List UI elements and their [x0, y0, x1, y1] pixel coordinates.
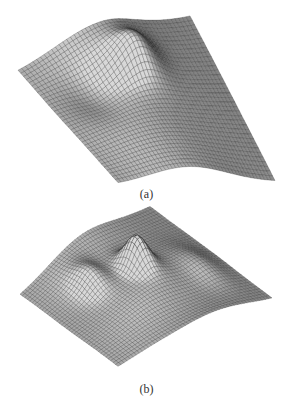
- figure-panel-b: (b): [0, 200, 293, 412]
- mesh-surface-b: [0, 200, 293, 380]
- surface-a-mesh: [18, 16, 275, 183]
- surface-b-mesh: [20, 206, 272, 366]
- mesh-surface-a: [0, 0, 293, 190]
- figure-panel-a: (a): [0, 0, 293, 200]
- caption-b: (b): [0, 382, 293, 397]
